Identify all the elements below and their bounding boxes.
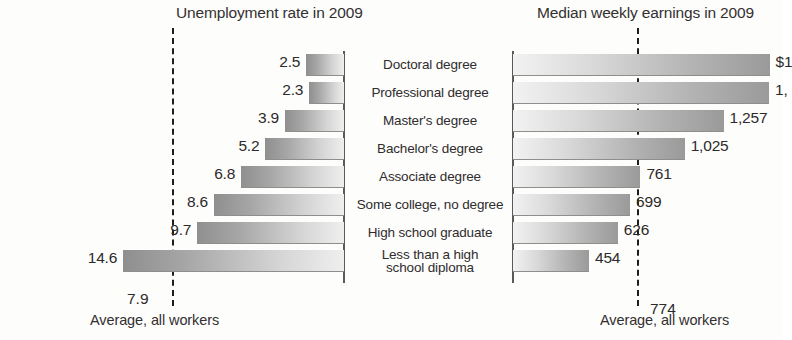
left-average-caption: Average, all workers xyxy=(90,312,219,328)
category-label-column: Doctoral degreeProfessional degreeMaster… xyxy=(352,46,508,288)
bar xyxy=(513,138,685,160)
category-row: Less than a high school diploma xyxy=(352,247,508,275)
bar xyxy=(513,110,724,132)
bar-row: 1,025 xyxy=(511,135,783,163)
bar-row: 2.3 xyxy=(0,79,346,107)
bar xyxy=(214,194,344,216)
bar-value-label: 2.5 xyxy=(279,53,300,71)
right-average-caption: Average, all workers xyxy=(600,312,729,328)
bar xyxy=(513,82,769,104)
bar-row: 1, xyxy=(511,79,783,107)
bar-value-label: 14.6 xyxy=(88,249,117,267)
bar-row: 5.2 xyxy=(0,135,346,163)
bar xyxy=(513,194,630,216)
bar-row: 699 xyxy=(511,191,783,219)
category-label: Professional degree xyxy=(371,86,488,100)
bar-row: 3.9 xyxy=(0,107,346,135)
bar-value-label: 6.8 xyxy=(214,165,235,183)
category-label: High school graduate xyxy=(368,226,493,240)
median-weekly-earnings-chart: $11,1,2571,025761699626454 xyxy=(511,46,783,288)
bar-value-label: 1,257 xyxy=(730,109,768,127)
left-average-value: 7.9 xyxy=(127,290,149,308)
unemployment-rate-chart: 2.52.33.95.26.88.69.714.6 xyxy=(0,46,346,288)
right-chart-title: Median weekly earnings in 2009 xyxy=(537,4,754,22)
bar-row: 14.6 xyxy=(0,247,346,275)
category-row: High school graduate xyxy=(352,219,508,247)
bar xyxy=(241,166,344,188)
bar-row: 8.6 xyxy=(0,191,346,219)
category-row: Some college, no degree xyxy=(352,191,508,219)
category-label: Doctoral degree xyxy=(383,58,477,72)
bar xyxy=(123,250,344,272)
bar-row: 1,257 xyxy=(511,107,783,135)
bar xyxy=(265,138,344,160)
category-label: Bachelor's degree xyxy=(377,142,483,156)
bar-row: 9.7 xyxy=(0,219,346,247)
bar-row: 626 xyxy=(511,219,783,247)
category-row: Professional degree xyxy=(352,79,508,107)
category-row: Doctoral degree xyxy=(352,51,508,79)
bar-value-label: 1,025 xyxy=(691,137,729,155)
bar-value-label: 1, xyxy=(775,81,788,99)
bar-value-label: $1 xyxy=(776,53,792,71)
bar xyxy=(513,54,770,76)
bar xyxy=(513,166,640,188)
bar-row: 761 xyxy=(511,163,783,191)
bar-value-label: 2.3 xyxy=(282,81,303,99)
bar-row: 6.8 xyxy=(0,163,346,191)
bar-value-label: 5.2 xyxy=(238,137,259,155)
category-row: Associate degree xyxy=(352,163,508,191)
bar xyxy=(513,222,618,244)
bar-value-label: 761 xyxy=(646,165,671,183)
bar-value-label: 626 xyxy=(624,221,649,239)
category-row: Master's degree xyxy=(352,107,508,135)
bar-value-label: 3.9 xyxy=(258,109,279,127)
bar xyxy=(513,250,589,272)
category-label: Associate degree xyxy=(379,170,481,184)
bar-value-label: 454 xyxy=(595,249,620,267)
bar-value-label: 9.7 xyxy=(170,221,191,239)
bar xyxy=(285,110,344,132)
bar-row: 454 xyxy=(511,247,783,275)
left-chart-title: Unemployment rate in 2009 xyxy=(176,4,363,22)
bar xyxy=(306,54,344,76)
bar xyxy=(197,222,344,244)
bar-value-label: 699 xyxy=(636,193,661,211)
category-row: Bachelor's degree xyxy=(352,135,508,163)
category-label: Less than a high school diploma xyxy=(382,248,479,275)
category-label: Master's degree xyxy=(383,114,477,128)
bar-row: $1 xyxy=(511,51,783,79)
bar-row: 2.5 xyxy=(0,51,346,79)
category-label: Some college, no degree xyxy=(357,198,504,212)
bar xyxy=(309,82,344,104)
bar-value-label: 8.6 xyxy=(187,193,208,211)
